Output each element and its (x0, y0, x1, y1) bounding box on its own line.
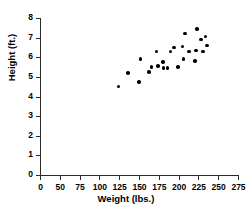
x-axis-tick: 100 (99, 175, 100, 180)
y-axis-tick-label: 1 (28, 149, 33, 160)
data-point (199, 38, 203, 42)
x-axis-tick: 125 (119, 175, 120, 180)
x-axis-tick: 50 (60, 175, 61, 180)
y-axis-tick-label: 7 (28, 32, 33, 43)
data-point (161, 60, 165, 64)
x-axis-tick: 275 (238, 175, 239, 180)
scatter-chart-figure: Height (ft.) Weight (lbs.) 012345678 050… (0, 0, 252, 213)
y-axis-tick: 6 (36, 57, 41, 58)
x-axis-tick-label: 0 (38, 182, 43, 193)
data-point (156, 64, 160, 68)
x-axis-tick-label: 275 (231, 182, 245, 193)
plot-area: 012345678 05075100125150175200225250275 (40, 18, 238, 175)
y-axis-tick: 2 (36, 136, 41, 137)
data-point (126, 71, 130, 75)
x-axis-tick-label: 50 (56, 182, 65, 193)
data-point (147, 70, 151, 74)
x-axis-tick-label: 100 (93, 182, 107, 193)
x-axis-title: Weight (lbs.) (0, 193, 252, 204)
y-axis-tick: 1 (36, 155, 41, 156)
x-axis-tick-label: 125 (113, 182, 127, 193)
data-point (194, 49, 198, 53)
y-axis-tick: 7 (36, 38, 41, 39)
x-axis-tick: 75 (80, 175, 81, 180)
data-point (187, 50, 191, 54)
data-point (155, 50, 159, 54)
y-axis-tick: 8 (36, 18, 41, 19)
data-point (162, 66, 166, 70)
data-point (117, 85, 121, 89)
x-axis-tick-label: 150 (132, 182, 146, 193)
y-axis-tick-label: 2 (28, 130, 33, 141)
x-axis-tick: 200 (179, 175, 180, 180)
data-point (176, 65, 180, 69)
data-point (166, 66, 170, 70)
y-axis-tick-label: 3 (28, 110, 33, 121)
data-point (181, 45, 185, 49)
x-axis-tick-label: 250 (212, 182, 226, 193)
x-axis-tick: 225 (198, 175, 199, 180)
data-point (182, 57, 186, 61)
y-axis-tick-label: 8 (28, 12, 33, 23)
y-axis-tick-label: 4 (28, 91, 33, 102)
data-point (204, 35, 208, 39)
data-point (139, 57, 143, 61)
data-point (169, 50, 173, 54)
y-axis-tick-label: 0 (28, 169, 33, 180)
x-axis-tick-label: 175 (152, 182, 166, 193)
x-axis-tick-label: 225 (192, 182, 206, 193)
data-point (183, 32, 187, 36)
data-point (150, 65, 154, 69)
y-axis-title: Height (ft.) (6, 3, 17, 113)
x-axis-tick: 175 (159, 175, 160, 180)
y-axis-tick-label: 6 (28, 51, 33, 62)
x-axis-tick: 250 (218, 175, 219, 180)
y-axis-tick: 4 (36, 97, 41, 98)
data-point (172, 46, 176, 50)
x-axis-tick: 150 (139, 175, 140, 180)
y-axis-tick: 3 (36, 116, 41, 117)
data-point (195, 27, 199, 31)
data-point (205, 44, 209, 48)
y-axis-tick-label: 5 (28, 71, 33, 82)
x-axis-tick: 0 (40, 175, 41, 180)
data-point (193, 59, 197, 63)
x-axis-tick-label: 200 (172, 182, 186, 193)
data-point (201, 50, 205, 54)
data-point (137, 80, 141, 84)
y-axis-tick: 5 (36, 77, 41, 78)
x-axis-tick-label: 75 (75, 182, 84, 193)
